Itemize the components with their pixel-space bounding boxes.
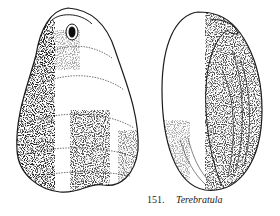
illustration bbox=[0, 0, 280, 216]
figure-name: Terebratula bbox=[176, 194, 223, 205]
lateral-shell bbox=[160, 10, 265, 200]
dorsal-shell bbox=[10, 8, 148, 200]
figure-caption: 151. Terebratula bbox=[147, 194, 223, 205]
foramen bbox=[69, 27, 76, 38]
figure-number: 151. bbox=[147, 194, 165, 205]
